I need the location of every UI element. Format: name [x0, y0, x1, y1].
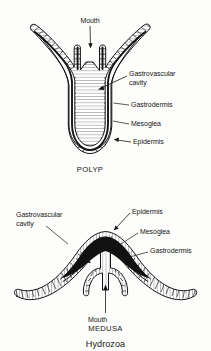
polyp-label-mouth: Mouth — [80, 17, 99, 24]
medusa-gvc-leader — [46, 226, 68, 244]
polyp-epidermis-arrowhead — [114, 138, 119, 142]
medusa-label-gastrovascular-cavity-1: Gastrovascular — [16, 211, 63, 218]
polyp-label-gastrovascular-cavity-2: cavity — [129, 79, 147, 87]
figure-canvas: Mouth Gastrovascular cavity Gastrodermis… — [0, 0, 211, 351]
polyp-diagram: Mouth Gastrovascular cavity Gastrodermis… — [30, 17, 176, 174]
medusa-label-mouth: Mouth — [88, 316, 107, 323]
polyp-label-mesoglea: Mesoglea — [131, 120, 161, 128]
polyp-gastrodermis-leader — [114, 103, 130, 105]
medusa-label-gastrodermis: Gastrodermis — [150, 247, 192, 254]
medusa-label-gastrovascular-cavity-2: cavity — [16, 220, 34, 228]
polyp-label-gastrovascular-cavity-1: Gastrovascular — [129, 70, 176, 77]
medusa-label-mesoglea: Mesoglea — [140, 228, 170, 236]
polyp-mesoglea-leader — [113, 121, 129, 124]
medusa-label-epidermis: Epidermis — [132, 208, 163, 216]
medusa-caption: MEDUSA — [88, 324, 123, 333]
polyp-caption: POLYP — [77, 165, 103, 174]
medusa-diagram: Gastrovascular cavity Epidermis Mesoglea… — [14, 208, 196, 333]
polyp-mouth-leader — [90, 26, 91, 46]
polyp-epidermis-leader — [117, 140, 131, 142]
medusa-epidermis-leader — [116, 213, 130, 228]
figure-title: Hydrozoa — [86, 339, 125, 349]
polyp-label-epidermis: Epidermis — [133, 138, 164, 146]
polyp-mouth-arrowhead — [88, 43, 92, 48]
hydrozoa-figure: Mouth Gastrovascular cavity Gastrodermis… — [0, 0, 211, 351]
polyp-label-gastrodermis: Gastrodermis — [131, 101, 173, 108]
